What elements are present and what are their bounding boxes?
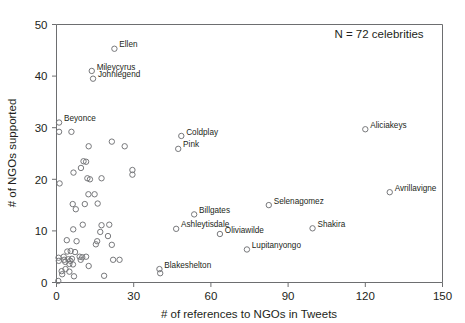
x-axis-ticks: 0306090120150 — [53, 283, 452, 302]
scatter-point — [99, 176, 104, 181]
scatter-point — [86, 263, 91, 268]
point-label-billgates: Billgates — [199, 206, 230, 215]
scatter-point-labeled — [90, 76, 95, 81]
scatter-point — [92, 192, 97, 197]
data-point-labels: EllenMileycyrusJohnlegendBeyonceColdplay… — [64, 40, 437, 269]
scatter-plot-figure: 0306090120150 01020304050 EllenMileycyru… — [0, 0, 465, 323]
x-axis-title: # of references to NGOs in Tweets — [161, 308, 337, 320]
point-label-beyonce: Beyonce — [64, 114, 96, 123]
scatter-point — [117, 257, 122, 262]
y-axis-ticks: 01020304050 — [35, 19, 57, 289]
point-label-ellen: Ellen — [119, 40, 138, 49]
scatter-point-labeled — [387, 190, 392, 195]
scatter-point-labeled — [176, 146, 181, 151]
scatter-point-labeled — [266, 202, 271, 207]
scatter-point — [71, 170, 76, 175]
scatter-point — [83, 254, 88, 259]
scatter-point — [57, 181, 62, 186]
scatter-point — [110, 257, 115, 262]
point-label-pink: Pink — [183, 140, 200, 149]
point-label-selenagomez: Selenagomez — [274, 197, 324, 206]
x-tick-label: 30 — [127, 290, 140, 302]
point-label-coldplay: Coldplay — [186, 128, 219, 137]
point-label-lupitanyongo: Lupitanyongo — [252, 241, 302, 250]
scatter-point-labeled — [310, 226, 315, 231]
scatter-point — [122, 144, 127, 149]
scatter-point — [105, 233, 110, 238]
scatter-point — [101, 273, 106, 278]
scatter-point — [74, 239, 79, 244]
scatter-point — [71, 274, 76, 279]
scatter-point-labeled — [179, 133, 184, 138]
scatter-point — [69, 129, 74, 134]
x-tick-label: 120 — [356, 290, 375, 302]
scatter-point — [109, 242, 114, 247]
scatter-point-labeled — [112, 46, 117, 51]
scatter-point-labeled — [244, 247, 249, 252]
scatter-point — [56, 129, 61, 134]
x-tick-label: 0 — [53, 290, 59, 302]
scatter-point — [107, 222, 112, 227]
x-tick-label: 150 — [433, 290, 452, 302]
data-points — [56, 46, 393, 284]
scatter-point — [98, 229, 103, 234]
y-tick-label: 10 — [35, 225, 48, 237]
y-tick-label: 0 — [41, 277, 47, 289]
point-label-blakeshelton: Blakeshelton — [164, 261, 211, 270]
scatter-point — [109, 139, 114, 144]
point-label-aliciakeys: Aliciakeys — [370, 121, 406, 130]
point-label-johnlegend: Johnlegend — [98, 70, 141, 79]
plot-canvas: 0306090120150 01020304050 EllenMileycyru… — [0, 0, 465, 323]
y-axis-title: # of NGOs supported — [6, 99, 18, 208]
point-label-avrillavigne: Avrillavigne — [395, 184, 437, 193]
sample-size-annotation: N = 72 celebrities — [334, 28, 423, 40]
point-label-shakira: Shakira — [317, 220, 345, 229]
scatter-point-labeled — [173, 226, 178, 231]
scatter-point — [70, 201, 75, 206]
scatter-point — [95, 201, 100, 206]
y-tick-label: 50 — [35, 19, 48, 31]
scatter-point-labeled — [56, 120, 61, 125]
scatter-point — [80, 222, 85, 227]
scatter-point — [99, 223, 104, 228]
scatter-point — [64, 237, 69, 242]
point-label-oliviawilde: Oliviawilde — [225, 226, 265, 235]
scatter-point — [78, 165, 83, 170]
scatter-point-labeled — [363, 127, 368, 132]
x-tick-label: 60 — [205, 290, 218, 302]
scatter-point-labeled — [217, 231, 222, 236]
scatter-point — [67, 269, 72, 274]
scatter-point — [71, 227, 76, 232]
y-tick-label: 30 — [35, 122, 48, 134]
x-tick-label: 90 — [282, 290, 295, 302]
scatter-point — [73, 207, 78, 212]
scatter-point-labeled — [191, 212, 196, 217]
scatter-point — [82, 201, 87, 206]
y-tick-label: 40 — [35, 70, 48, 82]
y-tick-label: 20 — [35, 174, 48, 186]
scatter-point — [86, 144, 91, 149]
scatter-point — [86, 192, 91, 197]
scatter-point-labeled — [89, 68, 94, 73]
point-label-ashleytisdale: Ashleytisdale — [181, 220, 230, 229]
